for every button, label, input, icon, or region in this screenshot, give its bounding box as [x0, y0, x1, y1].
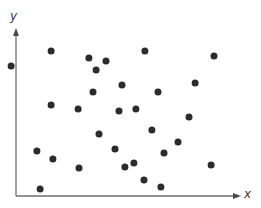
data-point	[130, 160, 137, 167]
data-point	[119, 82, 126, 89]
data-point	[49, 156, 56, 163]
data-point	[116, 108, 123, 115]
data-point	[48, 48, 55, 55]
y-axis-arrowhead-icon	[13, 28, 19, 36]
data-point	[121, 163, 128, 170]
data-point	[148, 127, 155, 134]
x-axis-arrowhead-icon	[233, 193, 241, 199]
data-point	[157, 183, 164, 190]
data-points	[8, 48, 218, 193]
data-point	[141, 177, 148, 184]
data-point	[76, 164, 83, 171]
data-point	[48, 101, 55, 108]
data-point	[132, 106, 139, 113]
data-point	[8, 63, 15, 70]
scatter-plot	[0, 0, 261, 208]
data-point	[37, 185, 44, 192]
data-point	[112, 146, 119, 153]
data-point	[186, 114, 193, 121]
data-point	[208, 161, 215, 168]
data-point	[161, 150, 168, 157]
axes	[13, 28, 241, 199]
data-point	[75, 106, 82, 113]
data-point	[85, 55, 92, 62]
data-point	[211, 53, 218, 60]
x-axis-label: x	[244, 188, 251, 200]
data-point	[103, 57, 110, 64]
data-point	[175, 139, 182, 146]
data-point	[93, 67, 100, 74]
data-point	[96, 131, 103, 138]
y-axis-label: y	[10, 10, 17, 22]
data-point	[192, 79, 199, 86]
data-point	[33, 148, 40, 155]
data-point	[155, 89, 162, 96]
data-point	[141, 48, 148, 55]
data-point	[90, 89, 97, 96]
